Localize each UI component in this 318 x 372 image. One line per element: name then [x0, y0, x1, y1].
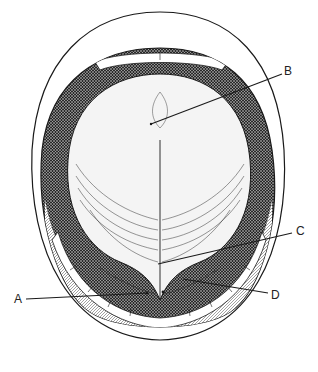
pointer-dot-b — [150, 123, 152, 125]
mouth-illustration — [0, 0, 318, 372]
label-a: A — [14, 293, 22, 305]
label-d: D — [271, 289, 280, 301]
duct-opening-right — [162, 291, 165, 294]
anatomical-figure: A B C D — [0, 0, 318, 372]
label-b: B — [284, 65, 292, 77]
label-c: C — [296, 225, 305, 237]
